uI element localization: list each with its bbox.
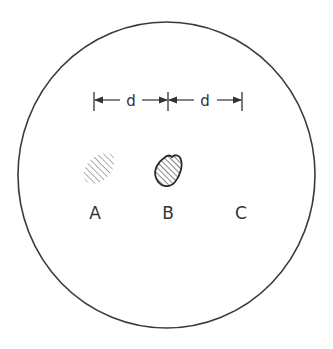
spot-label-c: C [235,203,247,223]
spot-b [155,155,182,186]
dimension-label-1: d [126,92,136,110]
dimension-label-2: d [200,92,210,110]
spot-label-a: A [89,203,101,223]
spot-label-b: B [162,203,174,223]
diagram-canvas: d d A B C [0,0,333,349]
spot-a [84,153,115,184]
